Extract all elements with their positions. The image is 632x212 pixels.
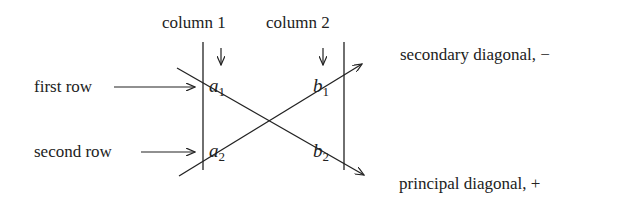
element-a2: a2 bbox=[209, 141, 225, 163]
secondary-diagonal-label: secondary diagonal, − bbox=[400, 46, 550, 63]
secondary-diagonal-arrow bbox=[179, 64, 362, 176]
principal-diagonal-arrow bbox=[177, 68, 364, 175]
column2-label: column 2 bbox=[266, 14, 330, 31]
column1-label: column 1 bbox=[162, 14, 226, 31]
element-b1: b1 bbox=[313, 76, 329, 98]
second-row-label: second row bbox=[34, 143, 112, 160]
first-row-label: first row bbox=[34, 78, 92, 95]
element-a1: a1 bbox=[209, 76, 225, 98]
principal-diagonal-label: principal diagonal, + bbox=[399, 175, 540, 192]
element-b2: b2 bbox=[313, 141, 329, 163]
